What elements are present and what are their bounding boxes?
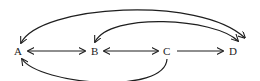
edge-b-d-curve xyxy=(95,22,238,42)
node-a: A xyxy=(14,45,22,57)
edge-c-a-curve xyxy=(22,59,167,81)
node-c: C xyxy=(163,45,170,57)
graph-diagram: A B C D xyxy=(0,0,260,81)
node-d: D xyxy=(229,45,237,57)
node-b: B xyxy=(91,45,98,57)
edge-a-d-curve xyxy=(21,10,245,43)
